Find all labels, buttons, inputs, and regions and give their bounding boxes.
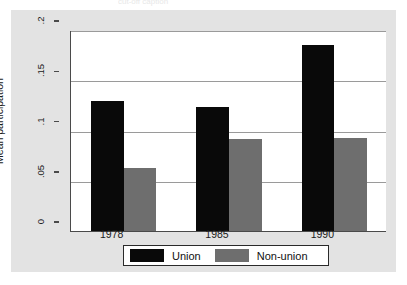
plot-area xyxy=(70,31,386,232)
x-tick-label: 1990 xyxy=(297,228,347,240)
y-tick-label: .1 xyxy=(35,110,46,132)
y-tick-mark xyxy=(54,121,59,123)
y-tick-mark xyxy=(54,20,59,22)
chart-outer-panel: Mean participation 0.05.1.15.2 197819851… xyxy=(11,10,396,272)
y-tick-mark xyxy=(54,221,59,223)
bar-non-union-1985 xyxy=(229,139,262,231)
y-tick-label: .2 xyxy=(35,10,46,32)
y-tick-mark xyxy=(54,71,59,73)
y-tick-mark xyxy=(54,171,59,173)
y-tick-label: 0 xyxy=(35,211,46,233)
bar-non-union-1978 xyxy=(124,168,157,231)
y-tick-label: .05 xyxy=(35,160,46,182)
legend-label-nonunion: Non-union xyxy=(257,250,308,262)
gridline xyxy=(71,81,386,82)
chart-legend: Union Non-union xyxy=(123,245,329,266)
x-tick-label: 1978 xyxy=(87,228,137,240)
legend-swatch-union-icon xyxy=(130,249,164,262)
bar-union-1985 xyxy=(196,107,229,231)
legend-entry-nonunion: Non-union xyxy=(215,249,322,262)
bar-union-1978 xyxy=(91,101,124,231)
chart-figure: cut-off caption Mean participation 0.05.… xyxy=(0,0,407,285)
legend-label-union: Union xyxy=(172,250,201,262)
legend-entry-union: Union xyxy=(130,249,215,262)
caption-remnant: cut-off caption xyxy=(118,0,318,6)
x-tick-label: 1985 xyxy=(192,228,242,240)
bar-union-1990 xyxy=(302,45,335,231)
gridline xyxy=(71,31,386,32)
y-tick-label: .15 xyxy=(35,60,46,82)
legend-swatch-nonunion-icon xyxy=(215,249,249,262)
bar-non-union-1990 xyxy=(334,138,367,231)
y-axis-title: Mean participation xyxy=(0,61,5,181)
